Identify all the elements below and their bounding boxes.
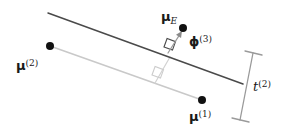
mu-2-point <box>46 42 54 50</box>
mean-connecting-line <box>50 46 202 100</box>
phi-normal-arrowhead <box>176 31 182 38</box>
phi-normal-arrow-shaft <box>168 36 179 53</box>
label-mu-e-sub: E <box>171 16 178 26</box>
mu-e-point <box>179 24 187 32</box>
figure-canvas: μE μ(2) μ(1) ϕ(3) t(2) <box>0 0 286 134</box>
label-t-2-sup: (2) <box>258 79 271 89</box>
label-mu-2-base: μ <box>16 58 26 73</box>
label-mu-2: μ(2) <box>16 57 38 73</box>
label-mu-1-sup: (1) <box>199 109 212 119</box>
mu-1-point <box>198 96 206 104</box>
label-mu-e-base: μ <box>161 9 171 24</box>
label-mu-1: μ(1) <box>189 108 211 124</box>
hyperplane-boundary-line <box>48 13 243 84</box>
label-mu-1-base: μ <box>189 109 199 124</box>
label-phi-3-base: ϕ <box>189 34 199 49</box>
label-mu-e: μE <box>161 8 177 26</box>
label-phi-3: ϕ(3) <box>189 33 212 49</box>
label-phi-3-sup: (3) <box>199 34 212 44</box>
t-measure-cap-top <box>245 51 262 55</box>
figure-graphics <box>0 0 286 134</box>
t-measure-axis <box>240 53 253 120</box>
perpendicular-drop-line <box>155 57 170 83</box>
label-mu-2-sup: (2) <box>26 58 39 68</box>
label-t-2: t(2) <box>253 78 271 94</box>
